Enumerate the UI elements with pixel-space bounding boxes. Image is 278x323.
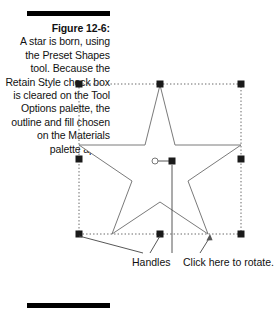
rotate-leader-arrowhead-icon: [206, 234, 212, 240]
annotation-handles-label: Handles: [132, 256, 171, 268]
handle-bottom-right[interactable]: [238, 231, 245, 238]
handle-top-right[interactable]: [238, 81, 245, 88]
rotation-pivot-icon[interactable]: [152, 158, 158, 164]
handles-leader-line-right: [150, 236, 160, 253]
handle-middle-left[interactable]: [76, 156, 83, 163]
handles-leader-line-left: [79, 236, 143, 253]
handle-middle-right[interactable]: [238, 156, 245, 163]
figure-artwork: [0, 0, 278, 323]
star-shape[interactable]: [79, 85, 241, 234]
figure-page: Figure 12-6: A star is born, using the P…: [0, 0, 278, 323]
handle-top-left[interactable]: [76, 81, 83, 88]
handle-top-center[interactable]: [157, 81, 164, 88]
annotation-rotate-label: Click here to rotate.: [183, 256, 274, 268]
center-handle[interactable]: [169, 158, 176, 165]
